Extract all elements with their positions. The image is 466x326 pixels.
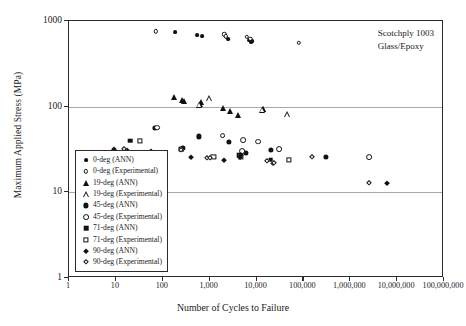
legend-item-4[interactable]: 45-deg (ANN) [80, 200, 162, 211]
x-tick-mark [209, 277, 210, 281]
circle-open-lg-icon [80, 211, 93, 222]
data-point [171, 94, 177, 100]
circle-filled-icon [80, 154, 93, 165]
legend-marker [83, 259, 89, 265]
data-point [220, 105, 226, 111]
annotation-line-1: Scotchply 1003 [378, 27, 434, 40]
data-point [366, 154, 372, 160]
plot-area: Scotchply 1003 Glass/Epoxy 0-deg (ANN)0-… [68, 20, 443, 277]
legend-marker [83, 191, 89, 197]
legend-item-label: 90-deg (ANN) [93, 247, 138, 255]
legend-item-label: 90-deg (Experimental) [93, 258, 162, 266]
data-point [220, 133, 226, 139]
x-tick-mark [162, 277, 163, 281]
data-point [200, 35, 204, 39]
legend-item-label: 0-deg (ANN) [93, 156, 134, 164]
data-point [138, 138, 143, 143]
data-point [154, 29, 158, 33]
y-tick-label-10: 10 [4, 186, 62, 196]
triangle-open-icon [80, 188, 93, 199]
data-point [173, 30, 177, 34]
data-point [178, 147, 184, 153]
data-point [197, 134, 202, 139]
data-point [323, 154, 328, 159]
chart-annotation: Scotchply 1003 Glass/Epoxy [378, 27, 434, 52]
data-point [276, 146, 282, 152]
circle-open-icon [80, 166, 93, 177]
legend-item-6[interactable]: 71-deg (ANN) [80, 222, 162, 233]
data-point [235, 112, 241, 118]
legend-item-3[interactable]: 19-deg (Experimental) [80, 188, 162, 199]
legend-marker [83, 214, 89, 220]
gridline-y-100 [69, 107, 442, 108]
annotation-line-2: Glass/Epoxy [378, 40, 434, 53]
data-point [284, 111, 290, 117]
data-point [271, 160, 277, 166]
legend-marker [83, 248, 88, 253]
figure-root: Maximum Applied Stress (MPa) Number of C… [0, 0, 466, 326]
data-point [287, 157, 292, 162]
legend-item-label: 19-deg (Experimental) [93, 190, 162, 198]
x-tick-mark [396, 277, 397, 281]
x-tick-mark [349, 277, 350, 281]
y-tick-label-1000: 1000 [4, 15, 62, 25]
x-tick-mark [302, 277, 303, 281]
data-point [384, 180, 389, 185]
x-tick-mark [256, 277, 257, 281]
y-axis-title: Maximum Applied Stress (MPa) [13, 5, 23, 265]
data-point [128, 138, 133, 143]
legend-item-label: 19-deg (ANN) [93, 179, 138, 187]
diamond-filled-icon [80, 245, 93, 256]
circle-filled-lg-icon [80, 200, 93, 211]
legend-item-label: 0-deg (Experimental) [93, 167, 158, 175]
legend-item-label: 71-deg (Experimental) [93, 236, 162, 244]
data-point [196, 102, 202, 108]
triangle-filled-icon [80, 177, 93, 188]
legend-marker [83, 180, 89, 186]
legend-item-2[interactable]: 19-deg (ANN) [80, 177, 162, 188]
legend-marker [84, 169, 88, 173]
data-point [268, 148, 273, 153]
data-point [181, 98, 187, 104]
y-tick-label-100: 100 [4, 101, 62, 111]
data-point [221, 157, 226, 162]
data-point [226, 139, 231, 144]
legend-item-9[interactable]: 90-deg (Experimental) [80, 257, 162, 268]
legend-item-1[interactable]: 0-deg (Experimental) [80, 165, 162, 176]
data-point [188, 154, 193, 159]
x-tick-mark [443, 277, 444, 281]
legend-item-label: 45-deg (ANN) [93, 201, 138, 209]
legend-box: 0-deg (ANN)0-deg (Experimental)19-deg (A… [75, 150, 168, 272]
legend-item-0[interactable]: 0-deg (ANN) [80, 154, 162, 165]
x-tick-mark [115, 277, 116, 281]
data-point [206, 95, 212, 101]
data-point [154, 125, 160, 131]
data-point [240, 137, 246, 143]
data-point [366, 180, 372, 186]
legend-item-7[interactable]: 71-deg (Experimental) [80, 234, 162, 245]
legend-marker [83, 203, 88, 208]
legend-marker [83, 237, 88, 242]
square-open-icon [80, 234, 93, 245]
x-tick-label-100000000: 100,000,000 [408, 281, 466, 290]
legend-marker [84, 158, 88, 162]
data-point [256, 139, 262, 145]
data-point [260, 106, 266, 112]
legend-item-8[interactable]: 90-deg (ANN) [80, 245, 162, 256]
x-tick-mark [68, 277, 69, 281]
data-point [309, 154, 315, 160]
diamond-open-icon [80, 257, 93, 268]
square-filled-icon [80, 223, 93, 234]
legend-marker [84, 226, 89, 231]
data-point [196, 33, 200, 37]
legend-item-label: 71-deg (ANN) [93, 224, 138, 232]
legend-item-5[interactable]: 45-deg (Experimental) [80, 211, 162, 222]
data-point [227, 108, 233, 114]
x-axis-title: Number of Cycles to Failure [0, 302, 466, 313]
data-point [297, 41, 301, 45]
legend-item-label: 45-deg (Experimental) [93, 213, 162, 221]
